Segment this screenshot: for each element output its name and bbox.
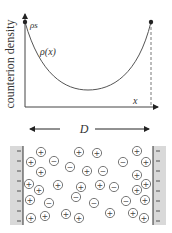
positive-ion-icon: + <box>74 147 83 156</box>
positive-ion-icon: + <box>26 157 35 166</box>
svg-text:+: + <box>78 183 84 192</box>
svg-text:−: − <box>91 199 97 208</box>
svg-text:+: + <box>36 186 42 195</box>
svg-text:−: − <box>111 183 117 192</box>
svg-text:+: + <box>63 210 69 219</box>
svg-text:+: + <box>143 180 149 189</box>
positive-ion-icon: + <box>34 185 43 194</box>
positive-ion-icon: + <box>74 213 83 222</box>
positive-ion-icon: + <box>36 147 45 156</box>
separation-label: D <box>79 122 89 136</box>
positive-ion-icon: + <box>92 148 101 157</box>
positive-ion-icon: + <box>82 166 91 175</box>
svg-text:+: + <box>130 209 136 218</box>
right-charged-wall <box>153 146 166 225</box>
positive-ion-icon: + <box>132 185 141 194</box>
plot-axes <box>25 14 158 107</box>
svg-text:+: + <box>134 186 140 195</box>
positive-ion-icon: + <box>132 170 141 179</box>
positive-ion-icon: + <box>26 213 35 222</box>
left-boundary-point <box>23 20 27 24</box>
negative-ion-icon: − <box>44 198 53 207</box>
positive-ion-icon: + <box>61 209 70 218</box>
positive-ion-icon: + <box>128 208 137 217</box>
svg-text:−: − <box>123 197 129 206</box>
svg-text:+: + <box>84 167 90 176</box>
svg-text:+: + <box>55 181 61 190</box>
svg-text:+: + <box>134 147 140 156</box>
svg-text:−: − <box>100 167 106 176</box>
positive-ion-icon: + <box>105 208 114 217</box>
positive-ion-icon: + <box>141 179 150 188</box>
svg-text:+: + <box>76 148 82 157</box>
separation-indicator: D <box>30 122 149 136</box>
right-boundary-point <box>149 20 153 24</box>
negative-ion-icon: − <box>49 156 58 165</box>
svg-text:+: + <box>141 214 147 223</box>
positive-ion-icon: + <box>95 180 104 189</box>
positive-ion-icon: + <box>36 167 45 176</box>
y-axis-label: counterion density <box>3 20 17 109</box>
left-charged-wall <box>10 146 23 225</box>
svg-text:+: + <box>42 212 48 221</box>
positive-ion-icon: + <box>76 182 85 191</box>
negative-ion-icon: − <box>65 162 74 171</box>
svg-text:+: + <box>28 158 34 167</box>
svg-text:+: + <box>107 209 113 218</box>
negative-ion-icon: − <box>71 192 80 201</box>
positive-ion-icon: + <box>25 195 34 204</box>
positive-ion-icon: + <box>139 213 148 222</box>
svg-text:+: + <box>38 148 44 157</box>
svg-text:+: + <box>27 196 33 205</box>
svg-text:+: + <box>143 158 149 167</box>
svg-text:−: − <box>120 158 126 167</box>
svg-text:+: + <box>97 181 103 190</box>
positive-ion-icon: + <box>140 195 149 204</box>
svg-text:+: + <box>76 214 82 223</box>
svg-text:+: + <box>38 168 44 177</box>
svg-text:−: − <box>46 199 52 208</box>
diagram-canvas: counterion density ρs ρ(x) x D +++++++++… <box>0 0 172 233</box>
negative-ion-icon: − <box>118 157 127 166</box>
negative-ion-icon: − <box>89 198 98 207</box>
svg-text:+: + <box>142 196 148 205</box>
svg-text:+: + <box>134 171 140 180</box>
negative-ion-icon: − <box>109 182 118 191</box>
negative-ion-icon: − <box>121 196 130 205</box>
svg-text:−: − <box>51 157 57 166</box>
svg-text:+: + <box>28 214 34 223</box>
svg-text:+: + <box>26 180 32 189</box>
svg-text:−: − <box>73 193 79 202</box>
svg-text:−: − <box>67 163 73 172</box>
ion-layer: +++++++++++++++++++++++++−−−−−−−−− <box>24 146 150 222</box>
x-axis-label: x <box>132 95 138 106</box>
positive-ion-icon: + <box>53 180 62 189</box>
rho-s-label: ρs <box>29 20 38 30</box>
positive-ion-icon: + <box>40 211 49 220</box>
negative-ion-icon: − <box>98 166 107 175</box>
svg-text:+: + <box>94 149 100 158</box>
positive-ion-icon: + <box>24 179 33 188</box>
positive-ion-icon: + <box>132 146 141 155</box>
positive-ion-icon: + <box>141 157 150 166</box>
rho-x-label: ρ(x) <box>39 46 57 58</box>
